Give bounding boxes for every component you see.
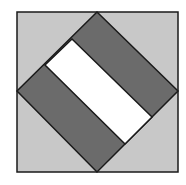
quilt-block-figure	[0, 0, 186, 185]
